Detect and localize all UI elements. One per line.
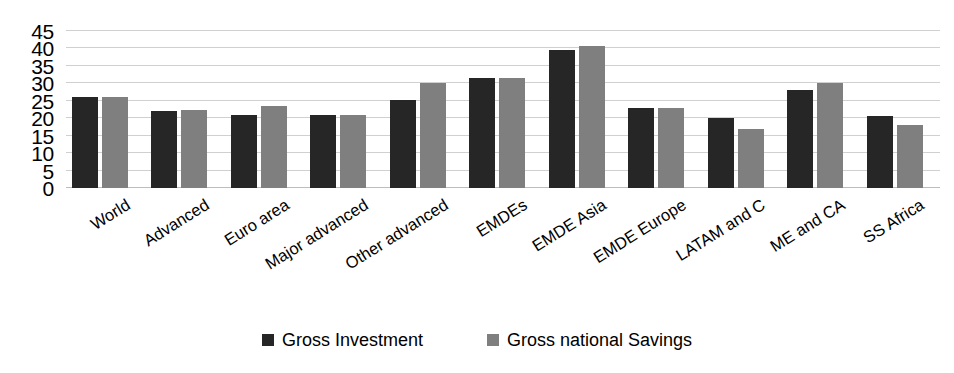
legend-label: Gross national Savings — [507, 330, 692, 350]
x-axis-tick-text: Advanced — [141, 196, 212, 249]
bar-group — [66, 31, 145, 188]
bar — [549, 50, 575, 188]
y-axis-tick-label: 0 — [43, 178, 54, 199]
bar — [72, 97, 98, 188]
x-axis-tick-text: Euro area — [221, 196, 291, 249]
y-axis: 454035302520151050 — [0, 31, 60, 188]
bar — [102, 97, 128, 188]
legend-item[interactable]: Gross Investment — [262, 330, 423, 350]
bar-group — [145, 31, 224, 188]
x-axis-tick-text: ME and CA — [767, 196, 848, 255]
legend-swatch-icon — [262, 334, 274, 346]
bar — [181, 110, 207, 188]
legend-swatch-icon — [487, 334, 499, 346]
x-axis: WorldAdvancedEuro areaMajor advancedOthe… — [66, 188, 940, 308]
bar-group — [543, 31, 622, 188]
x-axis-tick-text: World — [87, 196, 132, 233]
x-axis-tick-text: SS Africa — [861, 196, 928, 246]
bar — [579, 46, 605, 188]
x-axis-tick-text: EMDEs — [474, 196, 530, 240]
legend-item[interactable]: Gross national Savings — [487, 330, 692, 350]
bar-chart: 454035302520151050 WorldAdvancedEuro are… — [0, 0, 954, 373]
legend-label: Gross Investment — [282, 330, 423, 350]
chart-legend: Gross InvestmentGross national Savings — [0, 330, 954, 350]
